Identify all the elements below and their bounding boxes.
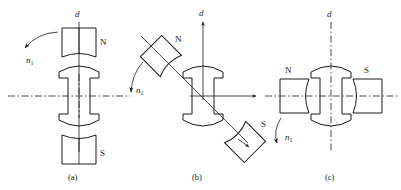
panel-b-south-pole-block <box>224 121 265 162</box>
panel-b-d-label: d <box>199 8 204 18</box>
panel-b-north-pole-label: N <box>175 34 182 44</box>
panel-a-rotation-arrow <box>25 32 58 48</box>
panel-c-rotation-label: n1 <box>285 132 293 143</box>
panel-b: d N S n1 (b) <box>131 8 266 182</box>
panel-c-rotation-arrow <box>276 118 281 143</box>
panel-b-south-pole-label-alt: S <box>261 119 266 129</box>
panel-c-south-pole-label: S <box>364 65 369 75</box>
figure-container: d N S n1 (a) d N <box>0 0 401 190</box>
panel-a-d-label: d <box>75 9 80 19</box>
panel-c-caption: (c) <box>325 172 335 182</box>
panel-a-north-pole-label: N <box>100 37 107 47</box>
panel-c-d-label: d <box>327 9 332 19</box>
panel-a-caption: (a) <box>68 172 78 182</box>
panel-b-pole-axis <box>141 36 248 143</box>
panel-c: d N S n1 (c) <box>265 9 398 182</box>
panel-b-caption: (b) <box>192 172 202 182</box>
panel-a: d N S n1 (a) <box>8 9 130 182</box>
panel-b-rotation-label: n1 <box>136 85 144 96</box>
panel-a-rotation-label: n1 <box>26 55 34 66</box>
panel-b-south-pole-arrow <box>238 139 249 147</box>
panel-a-south-pole-label: S <box>100 148 105 158</box>
panel-c-north-pole-label: N <box>285 65 292 75</box>
